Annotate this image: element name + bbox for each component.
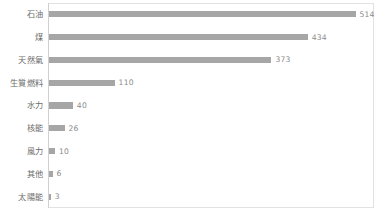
category-label: 煤 xyxy=(0,32,43,42)
bar[interactable] xyxy=(49,34,308,40)
bar[interactable] xyxy=(49,57,271,63)
category-label: 風力 xyxy=(0,146,43,156)
bar[interactable] xyxy=(49,80,115,86)
bar-value-label: 6 xyxy=(57,169,62,178)
bar-value-label: 434 xyxy=(312,33,327,42)
bar-track: 373 xyxy=(49,49,291,72)
bar-track: 26 xyxy=(49,117,79,140)
category-label: 石油 xyxy=(0,9,43,19)
bar-value-label: 40 xyxy=(77,101,87,110)
bar-track: 3 xyxy=(49,185,60,208)
bar-value-label: 10 xyxy=(59,147,69,156)
bar[interactable] xyxy=(49,171,53,177)
bar-value-label: 373 xyxy=(275,55,290,64)
bar-row[interactable]: 其他6 xyxy=(0,162,378,185)
bar-row[interactable]: 水力40 xyxy=(0,94,378,117)
bar-row[interactable]: 煤434 xyxy=(0,26,378,49)
bar-value-label: 110 xyxy=(119,78,134,87)
bar-track: 110 xyxy=(49,71,134,94)
category-label: 核能 xyxy=(0,123,43,133)
category-label: 太陽能 xyxy=(0,192,43,202)
bars-layer: 石油514煤434天然氣373生質燃料110水力40核能26風力10其他6太陽能… xyxy=(0,3,378,208)
bar-row[interactable]: 生質燃料110 xyxy=(0,71,378,94)
bar-track: 10 xyxy=(49,140,69,163)
bar-track: 514 xyxy=(49,3,375,26)
category-label: 其他 xyxy=(0,169,43,179)
bar-row[interactable]: 風力10 xyxy=(0,140,378,163)
bar-row[interactable]: 核能26 xyxy=(0,117,378,140)
bar[interactable] xyxy=(49,102,73,108)
bar-row[interactable]: 天然氣373 xyxy=(0,49,378,72)
bar[interactable] xyxy=(49,125,65,131)
bar-value-label: 26 xyxy=(69,124,79,133)
bar-chart: 石油514煤434天然氣373生質燃料110水力40核能26風力10其他6太陽能… xyxy=(0,0,378,214)
category-label: 水力 xyxy=(0,100,43,110)
bar-track: 6 xyxy=(49,162,62,185)
bar-row[interactable]: 太陽能3 xyxy=(0,185,378,208)
bar-value-label: 3 xyxy=(55,192,60,201)
bar-track: 40 xyxy=(49,94,87,117)
bar[interactable] xyxy=(49,11,356,17)
category-label: 生質燃料 xyxy=(0,78,43,88)
bar[interactable] xyxy=(49,194,51,200)
bar-row[interactable]: 石油514 xyxy=(0,3,378,26)
category-label: 天然氣 xyxy=(0,55,43,65)
bar-value-label: 514 xyxy=(360,10,375,19)
bar[interactable] xyxy=(49,148,55,154)
bar-track: 434 xyxy=(49,26,327,49)
